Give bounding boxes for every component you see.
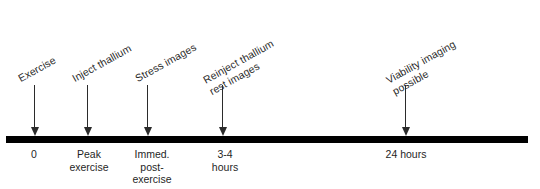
event-bottom-label-line2: hours: [212, 161, 238, 174]
event-bottom-label-line2: post-: [132, 161, 171, 174]
event-bottom-label-viability-imaging: 24 hours: [386, 148, 427, 161]
event-arrowhead-reinject-thallium: [219, 127, 227, 136]
event-bottom-label-line1: 24 hours: [386, 148, 427, 161]
event-top-label-viability-imaging: Viability imaging possible: [384, 38, 464, 97]
event-top-label-reinject-thallium: Reinject thallium rest images: [201, 37, 282, 97]
event-bottom-label-inject-thallium: Peak exercise: [69, 148, 108, 173]
timeline-axis-bar: [6, 136, 528, 143]
event-bottom-label-line2: exercise: [69, 161, 108, 174]
event-bottom-label-line1: Peak: [69, 148, 108, 161]
event-arrow-viability-imaging: [405, 85, 406, 128]
event-arrowhead-exercise: [31, 127, 39, 136]
event-top-label-line1: Stress images: [133, 41, 198, 84]
event-top-label-line1: Exercise: [16, 54, 58, 84]
event-top-label-stress-images: Stress images: [133, 41, 198, 85]
event-top-label-inject-thallium: Inject thallium: [70, 42, 134, 85]
event-bottom-label-line3: exercise: [132, 173, 171, 186]
event-arrow-exercise: [34, 85, 35, 128]
event-arrowhead-viability-imaging: [402, 127, 410, 136]
event-bottom-label-line1: Immed.: [132, 148, 171, 161]
event-bottom-label-line1: 3-4: [212, 148, 238, 161]
event-arrow-reinject-thallium: [222, 85, 223, 128]
timeline-diagram: Exercise Inject thallium Stress images R…: [0, 0, 540, 189]
event-arrow-inject-thallium: [87, 85, 88, 128]
event-bottom-label-exercise: 0: [31, 148, 37, 161]
event-bottom-label-stress-images: Immed. post- exercise: [132, 148, 171, 186]
event-bottom-label-line1: 0: [31, 148, 37, 161]
event-arrow-stress-images: [147, 85, 148, 128]
event-arrowhead-stress-images: [144, 127, 152, 136]
event-bottom-label-reinject-thallium: 3-4 hours: [212, 148, 238, 173]
event-top-label-line1: Inject thallium: [70, 42, 133, 84]
event-arrowhead-inject-thallium: [84, 127, 92, 136]
event-top-label-exercise: Exercise: [16, 54, 58, 85]
